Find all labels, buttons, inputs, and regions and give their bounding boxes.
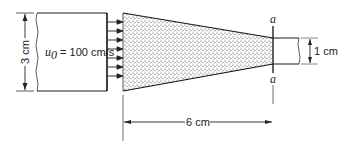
outlet-height-dimension: 1 cm <box>301 38 338 64</box>
inlet-height-label: 3 cm <box>19 40 31 64</box>
outlet-pipe <box>273 38 300 64</box>
section-label-top: a <box>270 12 276 26</box>
section-label-bottom: a <box>270 72 276 86</box>
inlet-pipe: u0 = 100 cm/s <box>36 13 115 91</box>
nozzle-diagram: 3 cm u0 = 100 cm/s a a <box>0 0 343 148</box>
velocity-arrows <box>108 20 123 78</box>
inlet-height-dimension: 3 cm <box>16 13 34 91</box>
outlet-height-label: 1 cm <box>314 45 338 57</box>
inlet-velocity-label: u0 = 100 cm/s <box>45 45 115 62</box>
converging-nozzle <box>123 13 273 91</box>
length-label: 6 cm <box>186 116 210 128</box>
length-dimension: 6 cm <box>123 95 272 141</box>
